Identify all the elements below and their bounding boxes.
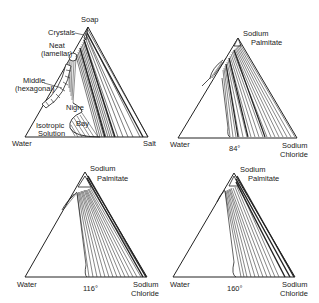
panel-generic-left-label: Water bbox=[12, 140, 32, 148]
panel-160-triangle bbox=[173, 173, 295, 277]
panel-160-apex-label-2: Palmitate bbox=[248, 175, 279, 183]
panel-160-temperature: 160° bbox=[227, 285, 243, 293]
panel-84-right-label-2: Chloride bbox=[280, 151, 308, 159]
label-nigre: Nigre bbox=[66, 104, 84, 112]
panel-160-left-label: Water bbox=[170, 281, 190, 289]
panel-116-apex-label-1: Sodium bbox=[90, 165, 115, 173]
panel-160-apex-label-1: Sodium bbox=[240, 166, 265, 174]
panel-116-left-label: Water bbox=[17, 281, 37, 289]
label-lamellar: (lamellar) bbox=[41, 50, 72, 58]
panel-116-temperature: 116° bbox=[83, 285, 98, 293]
panel-84-apex-label-1: Sodium bbox=[243, 30, 268, 38]
panel-116-right-label-1: Sodium bbox=[133, 281, 158, 289]
panel-84-right-label-1: Sodium bbox=[282, 142, 307, 150]
panel-116-right-label-2: Chloride bbox=[131, 290, 159, 298]
panel-84-apex-label-2: Palmitate bbox=[251, 39, 282, 47]
panel-116-apex-label-2: Palmitate bbox=[97, 175, 128, 183]
label-bay: Bay bbox=[76, 120, 89, 128]
panel-84-left-label: Water bbox=[170, 141, 190, 149]
panel-160-right-label-2: Chloride bbox=[280, 290, 308, 298]
label-solution: Solution bbox=[38, 130, 65, 138]
panel-160-right-label-1: Sodium bbox=[282, 281, 307, 289]
label-hexagonal: (hexagonal) bbox=[15, 85, 55, 93]
panel-generic-apex-label: Soap bbox=[81, 16, 99, 24]
panel-84-triangle bbox=[178, 38, 297, 138]
panel-84-temperature: 84° bbox=[229, 145, 240, 153]
panel-generic-right-label: Salt bbox=[143, 140, 156, 148]
panel-116-triangle bbox=[25, 172, 147, 277]
label-crystals: Crystals bbox=[48, 29, 75, 37]
